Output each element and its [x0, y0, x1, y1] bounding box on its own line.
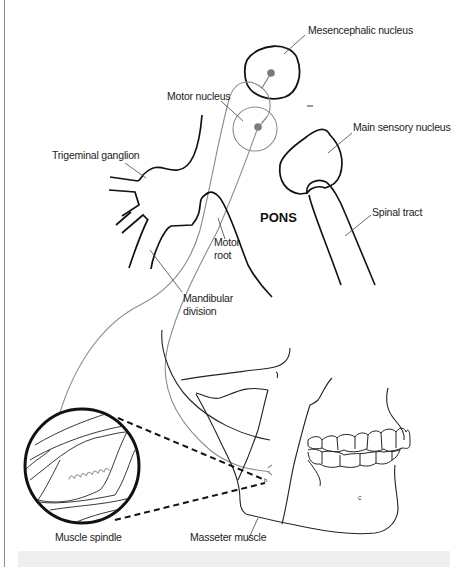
label-main-sensory-nucleus: Main sensory nucleus — [353, 121, 451, 134]
main-sensory-nucleus — [280, 129, 342, 194]
mesencephalic-nucleus — [245, 46, 300, 99]
label-motor-root-line1: Motor — [214, 236, 240, 249]
svg-text:b: b — [264, 477, 268, 483]
label-mandibular-division-line1: Mandibular — [183, 292, 233, 305]
diagram-canvas: c b — [0, 0, 461, 567]
label-pons: PONS — [260, 211, 297, 224]
svg-text:c: c — [358, 494, 362, 501]
label-motor-nucleus: Motor nucleus — [167, 90, 230, 103]
motor-nucleus — [233, 107, 277, 151]
leader-lines — [125, 35, 371, 540]
trigeminal-ganglion — [109, 115, 208, 269]
label-spinal-tract: Spinal tract — [372, 206, 422, 219]
label-muscle-spindle: Muscle spindle — [55, 531, 122, 544]
label-mesencephalic-nucleus: Mesencephalic nucleus — [308, 24, 413, 37]
label-masseter-muscle: Masseter muscle — [190, 531, 266, 544]
label-trigeminal-ganglion: Trigeminal ganglion — [52, 149, 139, 162]
muscle-spindle-magnifier — [25, 408, 140, 525]
label-mandibular-division-line2: division — [183, 305, 216, 318]
bottom-bar — [18, 551, 450, 567]
label-motor-root-line2: root — [214, 249, 231, 262]
jaw-skull — [162, 330, 404, 534]
spinal-tract — [307, 181, 375, 286]
